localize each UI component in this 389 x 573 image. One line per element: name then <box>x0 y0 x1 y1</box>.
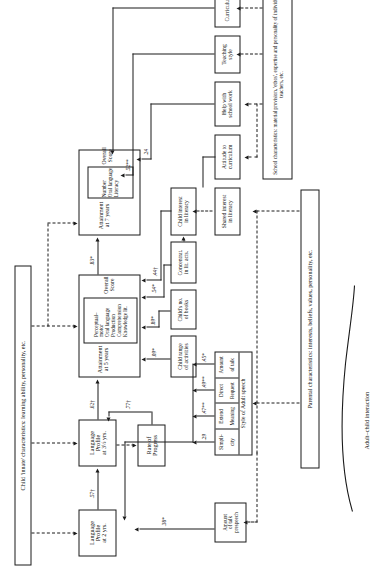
cell3-l2: of talk <box>229 355 234 374</box>
arrowhead-concentration-att5 <box>141 296 145 300</box>
arrowhead-lang2-rate <box>132 444 136 448</box>
arrowhead-school-help <box>244 103 248 107</box>
dash-innate-to-att7-v <box>47 222 75 223</box>
coef-lang2-lang35: .57† <box>88 489 94 498</box>
lang35-line3: at 3½ yrs. <box>100 429 106 455</box>
edge-childinterest-to-att5-v2 <box>146 279 161 280</box>
dash-innate-to-att5 <box>31 325 75 326</box>
node-attitude-to-curriculum: Attitude to curriculum <box>214 134 240 179</box>
att5-title: Attainment at 5 years <box>96 345 108 373</box>
att7-items: Number Oral language Literacy <box>101 167 118 196</box>
dash-parental-to-shared <box>256 210 299 211</box>
dash-parental-to-adultspeech <box>256 402 299 403</box>
edge-amount-up <box>196 363 214 364</box>
node-rate-of-progress: Rate of Progress <box>137 424 165 466</box>
arrowhead-innate-att5 <box>73 325 77 329</box>
node-amount-of-talk-prespeech: Amount of talk prespeech <box>214 502 246 542</box>
coef-amount-of-talk: .45* <box>200 353 206 362</box>
lang2-line1: Language <box>88 519 94 545</box>
coef-lang35-att5: .62† <box>88 400 94 409</box>
arrowhead-innate-lang35 <box>73 442 77 446</box>
dash-parental-to-prespeech-v <box>247 521 257 522</box>
edge-adultspeech-to-lang2-v <box>124 441 193 442</box>
edge-childrange-to-att5 <box>146 358 170 359</box>
diagram-canvas: Child 'innate' characteristics: learning… <box>0 0 389 573</box>
node-shared-interest-in-literacy: Shared interest in literacy <box>214 187 240 235</box>
arrowhead-shared-childinterest <box>192 210 196 214</box>
adult-speech-title: Style of Adult speech <box>240 352 246 454</box>
att5-subcomponents: Perceptual– motor Oral language Producti… <box>83 297 137 343</box>
att5-title-l1: Attainment <box>96 344 102 373</box>
child-interest-l2: in literacy <box>183 199 189 224</box>
arrowhead-childbooks-att5 <box>141 326 145 330</box>
coef-direct-request: .49** <box>200 376 206 388</box>
context-box-parental: Parental characteristics: interests, bel… <box>300 189 319 468</box>
edge-adultspeech-to-lang2-h <box>124 441 125 516</box>
cell3-l1: Amount <box>218 355 223 374</box>
node-attainment-7-years: Attainment at 7 years Number Oral langua… <box>78 149 140 235</box>
dash-shared-to-childinterest <box>196 210 212 211</box>
att7-title-l2: at 7 years <box>103 202 109 227</box>
coef-att5-att7: .83* <box>88 256 94 265</box>
teaching-l2: style <box>227 48 233 61</box>
edge-extend-up <box>196 415 214 416</box>
edge-concentration-to-att5-h <box>163 264 164 297</box>
edge-curriculum-to-att7-h <box>112 7 113 150</box>
att7-overall-score: Overall Score <box>101 147 113 164</box>
coef-simplicity: .29 <box>200 433 206 440</box>
edge-teaching-to-att7-v2 <box>125 174 133 175</box>
dash-school-to-attitude-v <box>248 156 257 157</box>
node-concentration-lit-acts: Concentrat. in lit. acts. <box>170 241 196 283</box>
help-l2: school work <box>227 89 233 119</box>
edge-childbooks-to-att5-h <box>158 310 159 327</box>
arrowhead-lang35-att5 <box>95 379 99 383</box>
edge-teaching-to-att7-v <box>132 53 214 54</box>
arrowhead-school-attitude <box>244 156 248 160</box>
edge-childinterest-to-att5-h <box>160 210 161 280</box>
lang35-line2: Profile <box>94 433 100 452</box>
arrowhead-concentration-childinterest <box>181 236 185 240</box>
edge-lang35-to-att5 <box>97 382 98 419</box>
coef-childbooks-att5: .89* <box>149 316 155 325</box>
arrowhead-school-teaching <box>236 53 240 57</box>
rate-line1: Rate of <box>145 435 151 455</box>
dash-innate-to-lang35 <box>31 442 75 443</box>
arrowhead-teaching-att7 <box>120 174 124 178</box>
arrowhead-innate-lang2 <box>73 532 77 536</box>
node-curriculum: Curriculum <box>214 0 240 27</box>
edge-childinterest-to-att5-v <box>160 210 171 211</box>
edge-direct-up <box>196 389 214 390</box>
arrowhead-adultspeech-lang2 <box>122 516 126 520</box>
curriculum-l1: Curriculum <box>224 0 230 22</box>
cell1-l1: Extend <box>218 406 223 426</box>
coef-childrange-att5: .09* <box>150 348 156 357</box>
cell0-l2: city <box>229 433 234 451</box>
arrowhead-school-curriculum <box>236 7 240 11</box>
edge-rate-to-lang35-h2 <box>108 411 109 416</box>
attitude-l2: curriculum <box>227 143 233 170</box>
cell2-l1: Direct <box>218 381 223 400</box>
arrowhead-lang2-lang35 <box>95 468 99 472</box>
child-range-l2: of activities <box>183 342 189 370</box>
edge-att5-to-att7 <box>97 240 98 274</box>
shared-interest-l2: in literacy <box>227 199 233 224</box>
arrowhead-parental-shared <box>252 210 256 214</box>
node-style-of-adult-speech: Simpli- city Extend Meaning Direct Reque… <box>214 351 252 455</box>
arrowhead-childinterest-att5 <box>141 279 145 283</box>
coef-rate-lang35: .77† <box>124 400 130 409</box>
coef-concentration-att5: .54* <box>150 284 156 293</box>
att5-overall-score: Overall Score <box>103 275 115 294</box>
lang2-line2: Profile <box>94 523 100 542</box>
adult-speech-cell-1: Extend Meaning <box>215 403 238 429</box>
context-child-innate-label: Child 'innate' characteristics: learning… <box>19 339 25 491</box>
adult-speech-cell-2: Direct Request <box>215 377 238 403</box>
edge-attitude-to-att5-h <box>202 156 203 187</box>
att7-title-l1: Attainment <box>97 200 103 229</box>
edge-lang2-to-lang35 <box>97 471 98 509</box>
edge-help-to-att7-h <box>150 103 151 159</box>
dash-innate-to-lang2 <box>31 532 75 533</box>
adult-child-brace <box>338 283 358 513</box>
arrowhead-parental-prespeech <box>243 521 247 525</box>
node-help-with-school-work: Help with school work <box>214 81 240 126</box>
coef-extend-meaning: .47** <box>200 402 206 414</box>
